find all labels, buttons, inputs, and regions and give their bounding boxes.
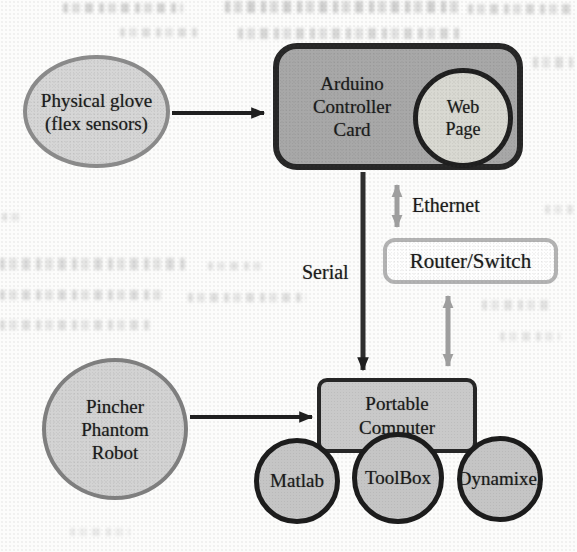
node-dynamixel: Dynamixel [457, 436, 543, 522]
dynamixel-label: Dynamixel [458, 468, 542, 490]
arduino-label-line2: Controller [313, 95, 391, 118]
serial-edge-label: Serial [302, 261, 349, 284]
bleedthrough-smudge [468, 4, 573, 14]
node-web-page: Web Page [413, 68, 513, 168]
robot-label-line2: Phantom [81, 418, 149, 441]
router-label: Router/Switch [410, 249, 531, 274]
bleedthrough-smudge [208, 262, 266, 270]
node-matlab: Matlab [254, 438, 340, 524]
figure-canvas: Physical glove (flex sensors) Arduino Co… [0, 0, 577, 552]
robot-label-line1: Pincher [86, 395, 144, 418]
arduino-label-line3: Card [334, 118, 371, 141]
robot-label-line3: Robot [92, 441, 138, 464]
bleedthrough-smudge [63, 3, 183, 13]
node-pincher-phantom-robot: Pincher Phantom Robot [42, 358, 188, 500]
bleedthrough-smudge [0, 290, 162, 300]
bleedthrough-smudge [500, 332, 560, 341]
webpage-label-line2: Page [446, 118, 481, 140]
bleedthrough-smudge [70, 528, 130, 536]
bleedthrough-smudge [2, 213, 24, 221]
webpage-label-line1: Web [447, 96, 480, 118]
bleedthrough-smudge [225, 1, 460, 13]
bleedthrough-smudge [188, 293, 306, 302]
computer-label-line1: Portable [365, 392, 428, 416]
bleedthrough-smudge [482, 300, 554, 310]
bleedthrough-smudge [120, 28, 200, 37]
toolbox-label: ToolBox [365, 467, 431, 489]
glove-label-line1: Physical glove [41, 89, 152, 112]
ethernet-edge-label: Ethernet [412, 194, 480, 217]
matlab-label: Matlab [270, 470, 324, 492]
node-physical-glove: Physical glove (flex sensors) [23, 55, 170, 168]
bleedthrough-smudge [0, 258, 185, 270]
arduino-label-line1: Arduino [320, 72, 383, 95]
bleedthrough-smudge [238, 28, 460, 39]
node-arduino-controller-card: Arduino Controller Card Web Page [273, 43, 523, 170]
node-toolbox: ToolBox [352, 432, 444, 524]
bleedthrough-smudge [0, 320, 152, 330]
node-router-switch: Router/Switch [383, 238, 558, 284]
bleedthrough-smudge [533, 57, 573, 68]
glove-label-line2: (flex sensors) [45, 112, 148, 135]
arduino-label: Arduino Controller Card [279, 49, 425, 164]
bleedthrough-smudge [545, 205, 573, 214]
